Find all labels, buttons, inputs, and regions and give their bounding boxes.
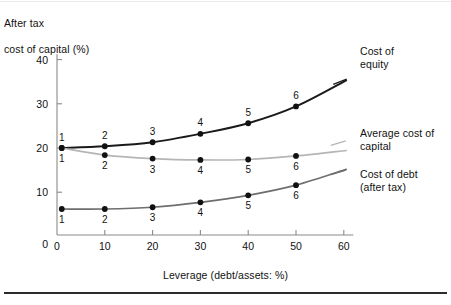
y-tick-label: 20 [36,142,48,154]
y-tick-label: 10 [36,186,48,198]
data-point-label: 6 [293,161,299,172]
x-axis-title: Leverage (debt/assets: %) [0,269,451,281]
data-point-label: 1 [59,153,65,164]
x-tick-label: 60 [338,240,350,252]
data-point-label: 2 [102,130,108,141]
data-point-label: 2 [102,160,108,171]
data-point-label: 1 [59,214,65,225]
series-line [62,169,346,209]
data-point-label: 1 [59,132,65,143]
x-tick-label: 40 [242,240,254,252]
data-point-label: 5 [245,107,251,118]
data-point-marker [245,157,251,163]
legend-label-average-cost-of-capital: Average cost of capital [360,127,434,152]
data-point-label: 3 [150,212,156,223]
data-point-marker [245,120,251,126]
x-tick-label: 20 [147,240,159,252]
legend-label-cost-of-debt: Cost of debt (after tax) [360,168,418,193]
legend-equity-line-1: Cost of [360,45,394,58]
y-tick-label: 40 [36,54,48,66]
data-point-marker [102,143,108,149]
legend-leader-line [331,141,346,145]
data-point-marker [293,153,299,159]
data-point-label: 3 [150,164,156,175]
data-point-marker [245,192,251,198]
data-point-marker [150,139,156,145]
legend-debt-line-2: (after tax) [360,181,418,194]
legend-average-line-1: Average cost of [360,127,434,140]
bottom-divider [4,292,447,294]
data-point-label: 2 [102,214,108,225]
legend-equity-line-2: equity [360,58,394,71]
x-tick-label: 10 [99,240,111,252]
data-point-label: 6 [293,190,299,201]
data-point-label: 4 [198,165,204,176]
data-point-marker [150,156,156,162]
data-point-label: 6 [293,90,299,101]
data-point-marker [198,199,204,205]
y-tick-label: 30 [36,98,48,110]
data-point-marker [293,182,299,188]
y-tick-label: 0 [42,238,48,250]
x-tick-label: 50 [290,240,302,252]
x-tick-label: 30 [195,240,207,252]
legend-average-line-2: capital [360,140,434,153]
data-point-marker [198,131,204,137]
data-point-label: 4 [198,207,204,218]
data-point-marker [198,157,204,163]
data-point-label: 5 [245,164,251,175]
figure-container: After tax cost of capital (%) 0102030400… [0,0,451,305]
legend-debt-line-1: Cost of debt [360,168,418,181]
data-point-marker [59,206,65,212]
data-point-label: 5 [245,200,251,211]
data-point-marker [293,104,299,110]
legend-label-cost-of-equity: Cost of equity [360,45,394,70]
data-point-marker [59,145,65,151]
legend-leader-line [331,170,346,174]
data-point-label: 4 [198,117,204,128]
x-tick-label: 0 [54,240,60,252]
data-point-marker [102,206,108,212]
data-point-label: 3 [150,126,156,137]
data-point-marker [150,204,156,210]
data-point-marker [102,152,108,158]
